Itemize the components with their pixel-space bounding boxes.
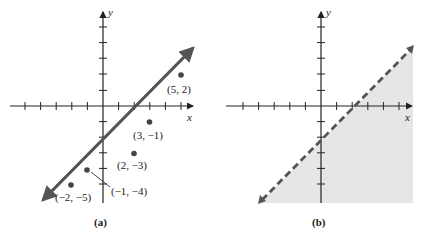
point-neg2-neg5 [68, 182, 74, 188]
point-label-neg2-neg5: (−2, −5) [55, 191, 92, 204]
x-axis-label: x [186, 111, 192, 123]
x-axis-label: x [404, 111, 410, 123]
leader-line [91, 172, 110, 187]
caption-b: (b) [312, 216, 326, 229]
point-label-neg1-neg4: (−1, −4) [111, 185, 148, 198]
point-neg1-neg4 [84, 167, 90, 173]
point-label-5-2: (5, 2) [167, 83, 191, 96]
y-axis-label: y [325, 6, 331, 18]
y-axis-label: y [107, 6, 113, 18]
figure: x y (5, 2) (3, −1) (2, −3) (−1, −4) (−2,… [0, 0, 423, 239]
point-2-neg3 [131, 151, 137, 157]
point-3-neg1 [147, 119, 153, 125]
point-5-2 [178, 72, 184, 78]
point-label-3-neg1: (3, −1) [133, 129, 163, 142]
point-label-2-neg3: (2, −3) [117, 159, 147, 172]
panel-b: x y (b) [226, 6, 414, 229]
caption-a: (a) [94, 216, 107, 229]
panel-a: x y (5, 2) (3, −1) (2, −3) (−1, −4) (−2,… [10, 6, 193, 229]
